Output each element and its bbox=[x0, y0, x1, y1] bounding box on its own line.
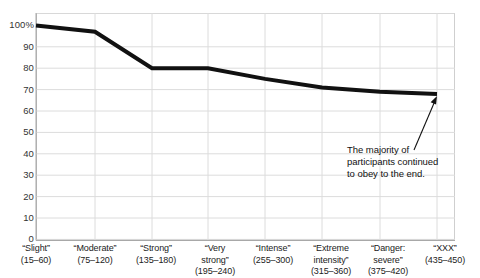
x-tick-moderate-line2: (75–120) bbox=[60, 255, 130, 267]
y-tick-50: 50 bbox=[2, 127, 34, 137]
x-tick-very-strong: “Very strong” (195–240) bbox=[182, 243, 248, 278]
x-tick-slight-line1: “Slight” bbox=[6, 243, 66, 255]
y-tick-30: 30 bbox=[2, 170, 34, 180]
x-tick-xxx-line2: (435–450) bbox=[412, 255, 478, 267]
y-axis-ticks: 100% 90 80 70 60 50 40 30 20 10 0 bbox=[0, 0, 34, 278]
chart-annotation-line3: to obey to the end. bbox=[347, 168, 475, 180]
x-tick-strong: “Strong” (135–180) bbox=[123, 243, 189, 266]
x-tick-moderate: “Moderate” (75–120) bbox=[60, 243, 130, 266]
y-tick-70: 70 bbox=[2, 85, 34, 95]
x-tick-xxx-line1: “XXX” bbox=[412, 243, 478, 255]
x-tick-xxx: “XXX” (435–450) bbox=[412, 243, 478, 266]
chart-annotation-line1: The majority of bbox=[347, 144, 475, 156]
y-tick-10: 10 bbox=[2, 213, 34, 223]
x-axis-ticks: “Slight” (15–60) “Moderate” (75–120) “St… bbox=[0, 243, 480, 278]
x-tick-strong-line2: (135–180) bbox=[123, 255, 189, 267]
y-tick-60: 60 bbox=[2, 106, 34, 116]
x-tick-danger-severe-line3: (375–420) bbox=[355, 266, 421, 278]
x-tick-moderate-line1: “Moderate” bbox=[60, 243, 130, 255]
y-tick-40: 40 bbox=[2, 149, 34, 159]
x-tick-strong-line1: “Strong” bbox=[123, 243, 189, 255]
x-tick-very-strong-line2: strong” bbox=[182, 255, 248, 267]
y-tick-90: 90 bbox=[2, 42, 34, 52]
y-tick-100: 100% bbox=[2, 20, 34, 30]
obedience-line-chart: 100% 90 80 70 60 50 40 30 20 10 0 “Sligh… bbox=[0, 0, 480, 278]
x-tick-very-strong-line3: (195–240) bbox=[182, 266, 248, 278]
chart-annotation-line2: participants continued bbox=[347, 156, 475, 168]
y-tick-20: 20 bbox=[2, 192, 34, 202]
x-tick-very-strong-line1: “Very bbox=[182, 243, 248, 255]
plot-area bbox=[36, 13, 455, 240]
x-tick-slight-line2: (15–60) bbox=[6, 255, 66, 267]
chart-annotation: The majority of participants continued t… bbox=[347, 144, 475, 181]
x-tick-slight: “Slight” (15–60) bbox=[6, 243, 66, 266]
y-tick-80: 80 bbox=[2, 63, 34, 73]
